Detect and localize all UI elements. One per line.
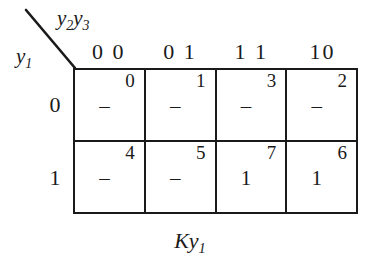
kmap-cell-6[interactable]: 6 1 bbox=[287, 142, 356, 212]
karnaugh-map-figure: y2y3 y1 0 0 0 1 1 1 10 0 1 0 – 1 – 3 – 2 bbox=[0, 0, 380, 274]
cell-value: – bbox=[146, 168, 215, 189]
kmap-cell-1[interactable]: 1 – bbox=[146, 70, 217, 140]
column-header-0: 0 0 bbox=[73, 38, 144, 66]
row-variable: y bbox=[16, 44, 25, 68]
cell-value: – bbox=[146, 96, 215, 117]
cell-value: – bbox=[75, 96, 144, 117]
cell-index: 0 bbox=[125, 71, 135, 92]
cell-value: – bbox=[217, 96, 286, 117]
cell-value: 1 bbox=[217, 168, 286, 189]
cell-index: 5 bbox=[196, 143, 206, 164]
column-header-3: 10 bbox=[287, 38, 358, 66]
kmap-cell-4[interactable]: 4 – bbox=[75, 142, 146, 212]
table-row: 0 – 1 – 3 – 2 – bbox=[75, 70, 356, 142]
cell-index: 1 bbox=[196, 71, 206, 92]
kmap-grid: 0 – 1 – 3 – 2 – 4 – 5 – bbox=[73, 68, 358, 214]
column-variable-b: y bbox=[73, 6, 82, 30]
row-header-column: 0 1 bbox=[40, 68, 70, 214]
cell-value: – bbox=[75, 168, 144, 189]
row-variable-label: y1 bbox=[16, 44, 32, 69]
row-variable-subscript: 1 bbox=[25, 56, 32, 71]
column-header-row: 0 0 0 1 1 1 10 bbox=[73, 38, 358, 66]
column-header-2: 1 1 bbox=[216, 38, 287, 66]
cell-value: 1 bbox=[287, 168, 356, 189]
kmap-cell-2[interactable]: 2 – bbox=[287, 70, 356, 140]
kmap-cell-3[interactable]: 3 – bbox=[217, 70, 288, 140]
cell-index: 4 bbox=[125, 143, 135, 164]
cell-value: – bbox=[287, 96, 356, 117]
cell-index: 7 bbox=[267, 143, 277, 164]
caption-variable: y bbox=[189, 228, 199, 253]
table-row: 4 – 5 – 7 1 6 1 bbox=[75, 142, 356, 212]
column-variable-a: y bbox=[57, 6, 66, 30]
kmap-cell-7[interactable]: 7 1 bbox=[217, 142, 288, 212]
row-header-1: 1 bbox=[40, 141, 70, 214]
figure-caption: Ky1 bbox=[0, 228, 380, 254]
column-variable-b-subscript: 3 bbox=[83, 18, 90, 33]
cell-index: 3 bbox=[267, 71, 277, 92]
caption-prefix: K bbox=[174, 228, 189, 253]
column-header-1: 0 1 bbox=[144, 38, 215, 66]
caption-variable-subscript: 1 bbox=[199, 240, 206, 256]
column-variable-label: y2y3 bbox=[57, 6, 90, 31]
row-header-0: 0 bbox=[40, 68, 70, 141]
kmap-cell-5[interactable]: 5 – bbox=[146, 142, 217, 212]
kmap-cell-0[interactable]: 0 – bbox=[75, 70, 146, 140]
cell-index: 2 bbox=[338, 71, 348, 92]
cell-index: 6 bbox=[338, 143, 348, 164]
